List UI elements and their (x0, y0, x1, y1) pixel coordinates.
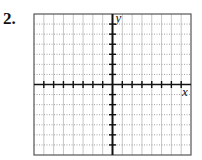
x-axis-label: x (182, 84, 188, 100)
coordinate-grid (0, 0, 202, 160)
y-axis-label: y (116, 10, 122, 26)
